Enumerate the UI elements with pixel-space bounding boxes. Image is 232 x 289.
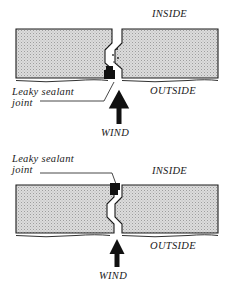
- label-leaky-sealant-line2-top: joint: [12, 97, 33, 109]
- panel-right: [115, 185, 218, 233]
- wind-arrow-icon: [112, 93, 127, 124]
- outside-face-line: [16, 80, 218, 82]
- label-outside-bottom: OUTSIDE: [150, 240, 196, 252]
- bottom-section-drawing: [0, 145, 232, 289]
- panel-right: [115, 29, 218, 78]
- label-wind-bottom: WIND: [99, 270, 127, 282]
- label-leaky-sealant-line2-bottom: joint: [12, 164, 33, 176]
- outside-face-line: [16, 235, 218, 237]
- label-inside-bottom: INSIDE: [152, 165, 187, 177]
- sealant-bead: [110, 183, 120, 195]
- label-outside-top: OUTSIDE: [150, 85, 196, 97]
- panel-left: [16, 185, 114, 233]
- figure-top-section: INSIDE OUTSIDE Leaky sealant joint WIND: [0, 0, 232, 145]
- top-section-drawing: [0, 0, 232, 145]
- label-wind-top: WIND: [101, 127, 129, 139]
- wind-arrow-icon: [110, 239, 125, 267]
- figure-bottom-section: Leaky sealant joint INSIDE OUTSIDE WIND: [0, 145, 232, 289]
- panel-left: [16, 29, 112, 78]
- callout-leader-line: [40, 173, 116, 184]
- label-inside-top: INSIDE: [152, 8, 187, 20]
